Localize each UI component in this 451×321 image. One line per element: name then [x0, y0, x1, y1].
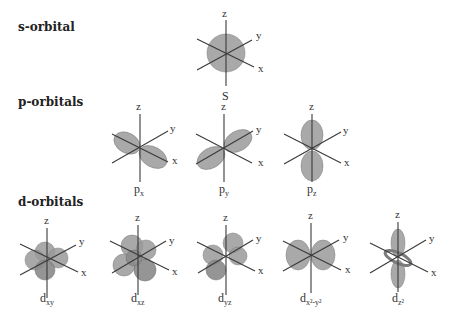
y-axis-label: y — [256, 123, 262, 135]
dx2y2-orbital: z y x dx²-y² — [283, 209, 351, 307]
dyz-label: dyz — [218, 291, 232, 307]
x-axis-label: x — [172, 154, 178, 166]
z-axis-label: z — [308, 209, 313, 221]
dxy-orbital: z y x dxy — [20, 214, 87, 307]
z-axis-label: z — [223, 211, 228, 223]
orbitals-diagram: z y x S z y x px z y x py z y x — [0, 0, 451, 321]
dyz-orbital: z y x dyz — [197, 211, 264, 307]
x-axis-label: x — [258, 156, 264, 168]
pz-label: pz — [307, 182, 317, 198]
y-axis-label: y — [256, 29, 262, 41]
z-axis-label: z — [395, 208, 400, 220]
dyz-lobe-4 — [206, 260, 226, 280]
dz2-label: dz² — [392, 291, 405, 307]
x-axis-label: x — [258, 62, 264, 74]
dxz-orbital: z y x dxz — [110, 211, 178, 307]
pz-orbital: z y x pz — [284, 100, 350, 198]
x-axis-label: x — [172, 265, 178, 277]
py-lobe-back — [220, 125, 256, 157]
s-orbital: z y x S — [197, 7, 264, 103]
dx2y2-label: dx²-y² — [300, 291, 322, 307]
z-axis-label: z — [136, 100, 141, 112]
x-axis-label: x — [81, 266, 87, 278]
y-axis-label: y — [170, 122, 176, 134]
px-orbital: z y x px — [110, 100, 178, 198]
x-axis-label: x — [345, 263, 351, 275]
y-axis-label: y — [256, 232, 262, 244]
y-axis-label: y — [169, 234, 175, 246]
z-axis-label: z — [221, 100, 226, 112]
x-axis-label: x — [258, 264, 264, 276]
x-axis-label: x — [344, 156, 350, 168]
z-axis-label: z — [222, 7, 227, 19]
z-axis-label: z — [135, 211, 140, 223]
y-axis-label: y — [343, 124, 349, 136]
px-label: px — [134, 182, 144, 198]
py-orbital: z y x py — [193, 100, 264, 198]
x-axis-label: x — [431, 266, 437, 278]
dxy-lobe-4 — [35, 260, 55, 280]
y-axis-label: y — [343, 231, 349, 243]
py-label: py — [219, 182, 229, 198]
y-axis-label: y — [429, 232, 435, 244]
z-axis-label: z — [44, 214, 49, 226]
z-axis-label: z — [309, 100, 314, 112]
dz2-orbital: z y x dz² — [370, 208, 437, 307]
y-axis-label: y — [79, 235, 85, 247]
